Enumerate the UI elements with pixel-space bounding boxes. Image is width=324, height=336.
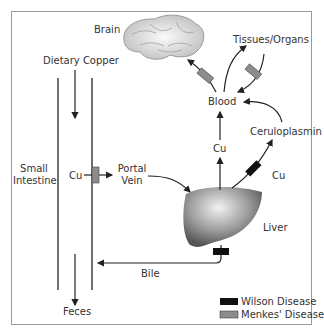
label-feces: Feces bbox=[63, 306, 91, 318]
label-cu-liver: Cu bbox=[272, 170, 285, 182]
label-dietary-copper: Dietary Copper bbox=[43, 55, 119, 67]
menkes-block-brain bbox=[197, 68, 214, 84]
label-blood: Blood bbox=[208, 96, 236, 108]
wilson-block-bile bbox=[213, 248, 229, 255]
brain-image bbox=[124, 15, 204, 59]
legend-label-wilson: Wilson Disease bbox=[241, 296, 316, 308]
label-portal-vein: Portal Vein bbox=[116, 163, 148, 187]
label-bile: Bile bbox=[141, 268, 160, 280]
liver-image bbox=[183, 187, 262, 247]
legend-swatch-menkes bbox=[220, 311, 238, 318]
menkes-block-intestine bbox=[92, 167, 99, 183]
label-brain: Brain bbox=[94, 24, 120, 36]
legend-label-menkes: Menkes' Disease bbox=[241, 309, 324, 321]
label-ceruloplasmin: Ceruloplasmin bbox=[250, 126, 322, 138]
label-small-intestine: Small Intestine bbox=[13, 163, 55, 187]
label-tissues: Tissues/Organs bbox=[233, 34, 309, 46]
label-cu-blood: Cu bbox=[213, 143, 226, 155]
label-cu-intestine: Cu bbox=[69, 170, 82, 182]
legend-swatch-wilson bbox=[220, 298, 238, 305]
label-liver: Liver bbox=[263, 222, 288, 234]
menkes-block-tissues bbox=[245, 64, 262, 80]
